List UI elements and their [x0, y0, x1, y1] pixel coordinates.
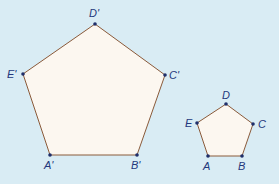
label-b-prime: B' [131, 160, 140, 171]
label-d: D [222, 90, 230, 101]
vertex-dot-e-prime [21, 72, 25, 76]
similar-pentagons-diagram: D' E' C' A' B' D E C A B [0, 0, 279, 184]
vertex-dot-b [240, 154, 244, 158]
label-d-prime: D' [89, 8, 99, 19]
label-a: A [203, 161, 210, 172]
vertex-dot-d [224, 102, 228, 106]
vertex-dot-d-prime [93, 22, 97, 26]
large-pentagon [23, 24, 165, 155]
diagram-svg [0, 0, 279, 184]
vertex-dot-a-prime [48, 153, 52, 157]
label-c: C [258, 119, 266, 130]
vertex-dot-b-prime [135, 153, 139, 157]
vertex-dot-e [195, 121, 199, 125]
vertex-dot-c [251, 122, 255, 126]
label-e: E [185, 118, 192, 129]
label-e-prime: E' [7, 69, 16, 80]
small-pentagon [197, 104, 253, 156]
label-a-prime: A' [44, 160, 53, 171]
label-b: B [238, 161, 245, 172]
vertex-dot-c-prime [163, 73, 167, 77]
vertex-dot-a [206, 154, 210, 158]
label-c-prime: C' [169, 70, 179, 81]
